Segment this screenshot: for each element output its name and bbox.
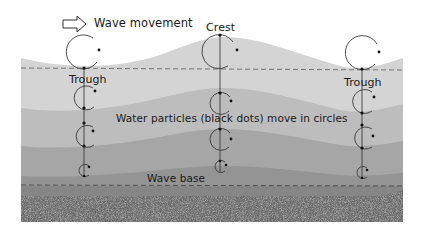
wave-diagram: Wave movement Crest Trough Trough Water … [0,0,441,237]
wave-movement-label: Wave movement [94,18,193,30]
wave-base-label: Wave base [147,173,205,184]
particles-caption: Water particles (black dots) move in cir… [116,113,348,124]
hollow-right-arrow-icon [63,16,86,32]
trough-label-right: Trough [344,77,382,88]
trough-label-left: Trough [69,74,107,85]
crest-label: Crest [206,22,235,33]
